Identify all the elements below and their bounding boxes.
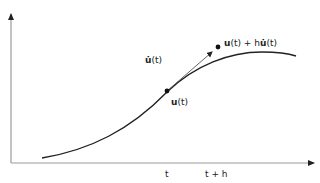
label-euler-rest: (t) (266, 38, 277, 48)
tangent-vector-arrow (167, 52, 212, 91)
x-tick-label-t-plus-h: t + h (205, 170, 228, 179)
label-tangent-u-dot: u̇(t) (145, 56, 162, 65)
label-euler-step: u(t) + hu̇(t) (224, 39, 277, 48)
label-tangent-rest: (t) (151, 55, 162, 65)
solution-curve (42, 52, 296, 158)
label-u-t: u(t) (171, 98, 188, 107)
point-euler-step (216, 45, 221, 50)
diagram-graphics (0, 0, 320, 183)
euler-step-diagram: u̇(t) u(t) u(t) + hu̇(t) t t + h (0, 0, 320, 183)
point-u-t (165, 89, 170, 94)
label-u-t-rest: (t) (177, 97, 188, 107)
label-euler-mid: (t) + h (230, 38, 260, 48)
x-tick-label-t: t (165, 170, 169, 179)
